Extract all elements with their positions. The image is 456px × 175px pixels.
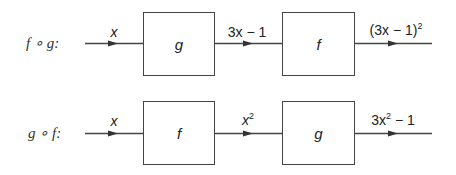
arrow-icon <box>243 131 253 137</box>
output-expression-tail: − 1 <box>391 112 415 128</box>
function-box-g: g <box>143 12 215 76</box>
arrow-icon <box>108 41 118 47</box>
row-fog-lines <box>85 41 432 47</box>
arrow-icon <box>388 131 398 137</box>
function-box-f: f <box>282 12 355 76</box>
arrow-icon <box>388 41 398 47</box>
box-label: f <box>316 36 320 53</box>
input-variable: x <box>111 24 118 40</box>
output-expression: (3x − 1) <box>370 22 418 38</box>
intermediate-expression: 3x − 1 <box>228 24 267 40</box>
box-label: g <box>314 125 322 142</box>
row-label-fog: f ∘ g: <box>26 34 59 52</box>
intermediate-signal-fog: 3x − 1 <box>228 24 267 40</box>
box-label: f <box>177 125 181 142</box>
output-signal-gof: 3x2 − 1 <box>371 112 415 128</box>
arrow-icon <box>243 41 253 47</box>
row-label-gof: g ∘ f: <box>28 124 61 142</box>
input-signal-fog: x <box>111 24 118 40</box>
function-box-g: g <box>282 101 355 165</box>
intermediate-signal-gof: x2 <box>242 112 254 128</box>
intermediate-exponent: 2 <box>249 111 254 121</box>
intermediate-expression: x <box>242 112 249 128</box>
arrow-icon <box>108 131 118 137</box>
box-label: g <box>175 36 183 53</box>
output-expression: 3x <box>371 112 386 128</box>
input-signal-gof: x <box>111 113 118 129</box>
output-exponent: 2 <box>417 21 422 31</box>
output-signal-fog: (3x − 1)2 <box>370 22 423 38</box>
input-variable: x <box>111 113 118 129</box>
function-box-f: f <box>143 101 215 165</box>
row-gof-lines <box>85 131 432 137</box>
